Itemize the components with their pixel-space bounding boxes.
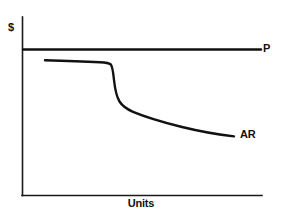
y-axis-label: $ <box>8 22 14 33</box>
axes-group <box>22 17 262 196</box>
kinked-demand-curve-plot <box>0 0 282 219</box>
x-axis-label: Units <box>0 198 282 209</box>
average-revenue-curve-series <box>45 60 234 136</box>
chart-figure: $ Units P AR <box>0 0 282 219</box>
average-revenue-curve-label: AR <box>240 129 256 140</box>
price-line-label: P <box>263 43 270 54</box>
series-group <box>23 50 261 137</box>
